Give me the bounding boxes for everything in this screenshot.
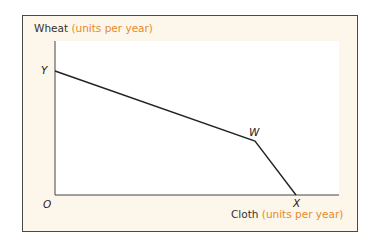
y-axis-title-text: Wheat [34, 22, 68, 34]
y-axis-unit: (units per year) [71, 22, 153, 34]
frontier-line [55, 71, 296, 195]
y-axis-title: Wheat (units per year) [34, 22, 153, 34]
x-axis-title: Cloth (units per year) [231, 208, 343, 220]
point-label-y: Y [41, 64, 47, 76]
x-axis-title-text: Cloth [231, 208, 258, 220]
origin-label: O [43, 198, 51, 210]
point-label-w: W [249, 126, 259, 138]
x-axis-unit: (units per year) [262, 208, 344, 220]
point-label-x: X [293, 197, 300, 209]
